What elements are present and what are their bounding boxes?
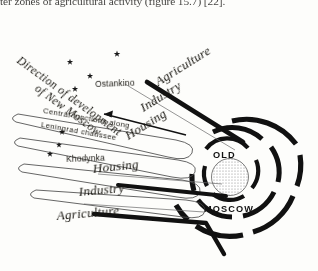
place-label-ostankino: Ostankino <box>95 78 135 89</box>
figure-moscow-development: Direction of development of New Moscow O… <box>0 14 318 271</box>
running-body-text: ter zones of agricultural activity (figu… <box>0 0 318 7</box>
scanned-page: ter zones of agricultural activity (figu… <box>0 0 318 271</box>
core-disc <box>212 159 249 196</box>
core-label-moscow: MOSCOW <box>204 204 254 214</box>
figure-vector-artwork <box>0 14 318 271</box>
core-label-old: OLD <box>213 150 236 160</box>
